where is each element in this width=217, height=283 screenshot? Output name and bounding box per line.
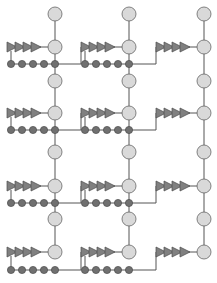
arrow-triangle-icon bbox=[105, 42, 115, 52]
small-dot-node bbox=[29, 199, 36, 206]
top-node bbox=[48, 7, 62, 21]
small-dot-node bbox=[125, 266, 132, 273]
main-node bbox=[48, 245, 62, 259]
arrow-triangle-icon bbox=[105, 108, 115, 118]
small-dot-node bbox=[125, 126, 132, 133]
small-dot-node bbox=[92, 126, 99, 133]
small-dot-node bbox=[103, 60, 110, 67]
small-dot-node bbox=[92, 60, 99, 67]
small-dot-node bbox=[51, 126, 58, 133]
top-node bbox=[197, 212, 211, 226]
main-node bbox=[122, 40, 136, 54]
small-dot-node bbox=[29, 266, 36, 273]
small-dot-node bbox=[114, 199, 121, 206]
small-dot-node bbox=[114, 126, 121, 133]
small-dot-node bbox=[7, 60, 14, 67]
main-node bbox=[48, 179, 62, 193]
main-node bbox=[197, 179, 211, 193]
small-dot-node bbox=[40, 199, 47, 206]
arrow-triangle-icon bbox=[180, 181, 190, 191]
small-dot-node bbox=[81, 199, 88, 206]
top-node bbox=[197, 145, 211, 159]
small-dot-node bbox=[92, 266, 99, 273]
arrow-triangle-icon bbox=[31, 181, 41, 191]
arrow-triangle-icon bbox=[180, 42, 190, 52]
small-dot-node bbox=[103, 126, 110, 133]
small-dot-node bbox=[18, 126, 25, 133]
small-dot-node bbox=[29, 60, 36, 67]
arrow-triangle-icon bbox=[180, 247, 190, 257]
small-dot-node bbox=[103, 266, 110, 273]
small-dot-node bbox=[51, 60, 58, 67]
small-dot-node bbox=[114, 266, 121, 273]
small-dot-node bbox=[81, 266, 88, 273]
arrow-triangle-icon bbox=[31, 42, 41, 52]
top-node bbox=[48, 74, 62, 88]
grid-graph-diagram bbox=[0, 0, 217, 283]
main-node bbox=[122, 245, 136, 259]
small-dot-node bbox=[125, 60, 132, 67]
small-dot-node bbox=[40, 126, 47, 133]
top-node bbox=[122, 212, 136, 226]
main-node bbox=[48, 40, 62, 54]
main-node bbox=[197, 106, 211, 120]
top-node bbox=[122, 7, 136, 21]
arrow-triangle-icon bbox=[105, 247, 115, 257]
small-dot-node bbox=[81, 60, 88, 67]
top-node bbox=[122, 74, 136, 88]
small-dot-node bbox=[81, 126, 88, 133]
arrow-triangle-icon bbox=[31, 247, 41, 257]
arrow-triangle-icon bbox=[31, 108, 41, 118]
main-node bbox=[122, 106, 136, 120]
small-dot-node bbox=[18, 199, 25, 206]
arrow-triangle-icon bbox=[105, 181, 115, 191]
small-dot-node bbox=[51, 199, 58, 206]
small-dot-node bbox=[7, 199, 14, 206]
small-dot-node bbox=[92, 199, 99, 206]
arrow-triangle-icon bbox=[180, 108, 190, 118]
top-node bbox=[122, 145, 136, 159]
small-dot-node bbox=[114, 60, 121, 67]
main-node bbox=[122, 179, 136, 193]
top-node bbox=[197, 74, 211, 88]
small-dot-node bbox=[18, 60, 25, 67]
main-node bbox=[197, 245, 211, 259]
top-node bbox=[197, 7, 211, 21]
main-node bbox=[48, 106, 62, 120]
small-dot-node bbox=[51, 266, 58, 273]
small-dot-node bbox=[7, 126, 14, 133]
top-node bbox=[48, 212, 62, 226]
small-dot-node bbox=[7, 266, 14, 273]
top-node bbox=[48, 145, 62, 159]
small-dot-node bbox=[29, 126, 36, 133]
small-dot-node bbox=[125, 199, 132, 206]
small-dot-node bbox=[103, 199, 110, 206]
small-dot-node bbox=[18, 266, 25, 273]
small-dot-node bbox=[40, 266, 47, 273]
main-node bbox=[197, 40, 211, 54]
small-dot-node bbox=[40, 60, 47, 67]
